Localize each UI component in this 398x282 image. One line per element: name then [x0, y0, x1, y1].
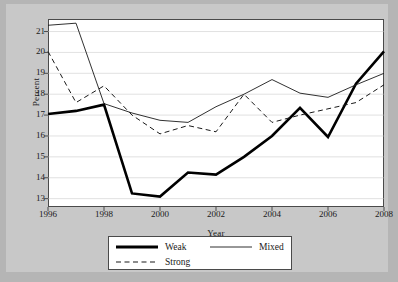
- axis-ticks: [44, 32, 384, 211]
- legend-label-weak: Weak: [165, 242, 186, 252]
- series-lines: [48, 23, 384, 196]
- series-line-strong: [48, 51, 384, 134]
- x-axis-tick-label: 2004: [252, 210, 292, 219]
- legend-label-mixed: Mixed: [259, 242, 284, 252]
- legend: Weak Mixed Strong: [108, 236, 292, 270]
- x-axis-tick-label: 2000: [140, 210, 180, 219]
- y-axis-title: Percent: [31, 57, 41, 127]
- x-axis-tick-label: 2002: [196, 210, 236, 219]
- legend-item-weak: Weak: [115, 239, 186, 254]
- legend-swatch-strong-icon: [115, 257, 159, 267]
- legend-label-strong: Strong: [165, 257, 190, 267]
- chart-figure: 131415161718192021 Percent Year Weak Mix…: [0, 0, 398, 282]
- legend-item-mixed: Mixed: [209, 239, 284, 254]
- series-line-mixed: [48, 23, 384, 122]
- x-axis-tick-label: 1998: [84, 210, 124, 219]
- legend-swatch-mixed-icon: [209, 242, 253, 252]
- legend-swatch-weak-icon: [115, 242, 159, 252]
- legend-item-strong: Strong: [115, 254, 190, 269]
- x-axis-tick-label: 1996: [28, 210, 68, 219]
- x-axis-tick-label: 2006: [308, 210, 348, 219]
- x-axis-tick-label: 2008: [364, 210, 398, 219]
